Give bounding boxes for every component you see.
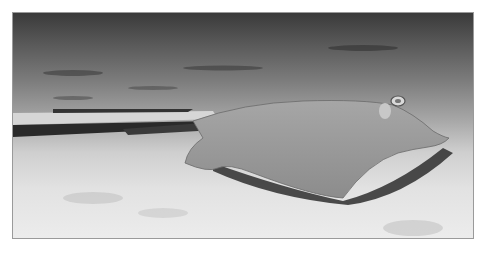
ray-tail: [13, 109, 218, 137]
stingray-photo: [12, 12, 474, 239]
stingray-scene: [13, 13, 474, 239]
